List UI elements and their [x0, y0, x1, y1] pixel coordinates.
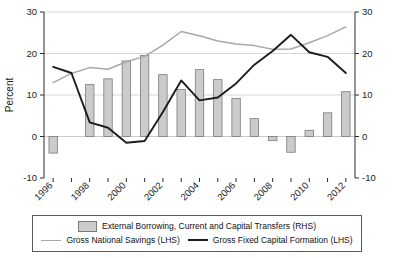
- bar-2001: [140, 56, 148, 137]
- gray-line-swatch-icon: [41, 240, 61, 241]
- y-axis-label: Percent: [4, 78, 15, 113]
- bar-2004: [195, 70, 203, 137]
- ytick-label-right-10: 10: [362, 89, 373, 100]
- bar-2012: [342, 92, 350, 137]
- legend-entry-external-borrowing: External Borrowing, Current and Capital …: [78, 221, 316, 232]
- legend-entry-gross-fixed-capital-formation: Gross Fixed Capital Formation (LHS): [188, 236, 353, 245]
- legend-label-gross-national-savings: Gross National Savings (LHS): [66, 236, 179, 245]
- xtick-label-2012: 2012: [325, 180, 348, 203]
- bar-1998: [86, 85, 94, 137]
- legend-row-top: External Borrowing, Current and Capital …: [38, 219, 356, 233]
- ytick-label-right--10: -10: [362, 172, 376, 183]
- bar-2007: [250, 119, 258, 137]
- bar-2003: [177, 90, 185, 137]
- xtick-label-1998: 1998: [68, 180, 91, 203]
- bar-2000: [122, 61, 130, 137]
- legend-entry-gross-national-savings: Gross National Savings (LHS): [41, 236, 179, 245]
- xtick-label-2010: 2010: [288, 180, 311, 203]
- xtick-label-2004: 2004: [178, 180, 201, 203]
- ytick-label-left-0: 0: [32, 131, 37, 142]
- xtick-label-2000: 2000: [105, 180, 128, 203]
- chart-legend: External Borrowing, Current and Capital …: [32, 215, 362, 252]
- bar-2009: [287, 137, 295, 153]
- bar-2011: [323, 113, 331, 137]
- legend-label-gross-fixed-capital-formation: Gross Fixed Capital Formation (LHS): [213, 236, 353, 245]
- xtick-label-2002: 2002: [142, 180, 165, 203]
- bar-2005: [214, 80, 222, 137]
- bar-swatch-icon: [78, 221, 97, 232]
- bar-2006: [232, 98, 240, 136]
- xtick-label-2008: 2008: [251, 180, 274, 203]
- ytick-label-right-20: 20: [362, 48, 373, 59]
- chart-figure: 30302020101000-10-1019961998200020022004…: [0, 0, 397, 258]
- ytick-label-left-30: 30: [26, 6, 37, 17]
- bar-1996: [49, 137, 57, 154]
- legend-row-bottom: Gross National Savings (LHS) Gross Fixed…: [38, 233, 356, 247]
- ytick-label-left-20: 20: [26, 48, 37, 59]
- ytick-label-right-0: 0: [362, 131, 367, 142]
- ytick-label-left-10: 10: [26, 89, 37, 100]
- bar-2010: [305, 130, 313, 136]
- ytick-label-left--10: -10: [23, 172, 37, 183]
- ytick-label-right-30: 30: [362, 6, 373, 17]
- xtick-label-2006: 2006: [215, 180, 238, 203]
- bar-2008: [268, 137, 276, 141]
- black-line-swatch-icon: [188, 239, 208, 241]
- legend-label-external-borrowing: External Borrowing, Current and Capital …: [102, 222, 316, 231]
